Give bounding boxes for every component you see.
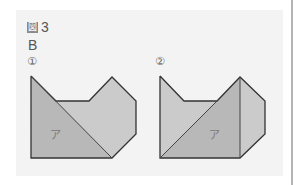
diagram-1-region-label: ア	[50, 126, 61, 142]
diagram-2	[160, 76, 265, 158]
diagram-1	[31, 76, 136, 158]
net-diagrams	[0, 0, 294, 185]
diagram-2-region-label: ア	[209, 126, 220, 142]
